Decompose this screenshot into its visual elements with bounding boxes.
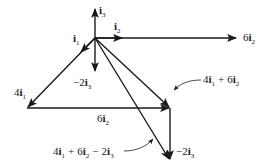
vector-i1-arrowhead [81, 38, 95, 52]
label-4i1-plus-6i2: 4i1+6i2 [203, 73, 240, 88]
label-neg2i3-right: −2i3 [176, 145, 195, 160]
label-neg2i3-mid: −2i3 [73, 76, 92, 91]
label-6i2-top: 6i2 [243, 31, 256, 46]
vector-resultant [95, 38, 169, 159]
leader-sum-4i1-6i2 [174, 80, 201, 90]
label-6i2-bottom: 6i2 [97, 112, 110, 127]
label-resultant: 4i1+6i2−2i3 [53, 145, 114, 160]
label-4i1: 4i1 [14, 86, 27, 101]
vector-4i1-plus-6i2 [95, 38, 169, 107]
vector-diagram: i3 i2 i1 6i2 −2i3 4i1 4i1+6i2 6i2 4i1+6i… [0, 0, 270, 166]
leader-resultant [124, 139, 153, 151]
label-i1: i1 [73, 32, 80, 47]
label-i2: i2 [114, 20, 121, 35]
label-i3: i3 [99, 4, 106, 19]
